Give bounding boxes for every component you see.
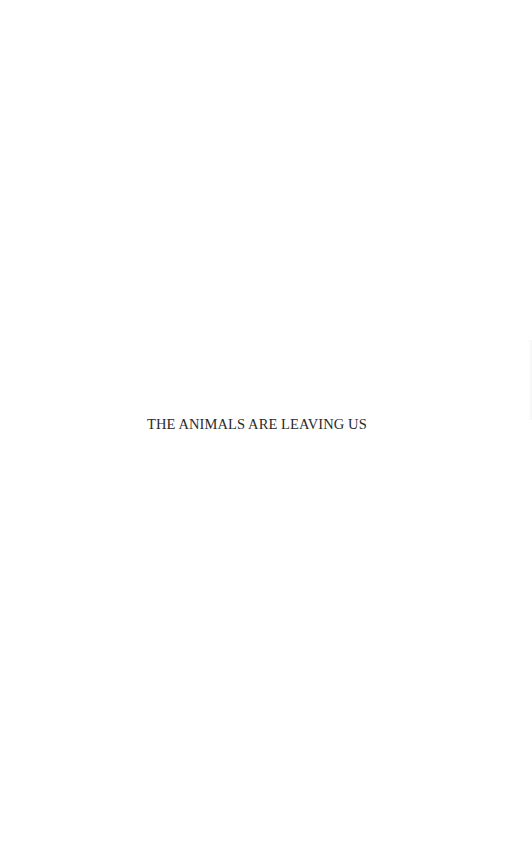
half-title: THE ANIMALS ARE LEAVING US bbox=[147, 414, 367, 434]
book-page: THE ANIMALS ARE LEAVING US bbox=[0, 0, 532, 859]
page-edge-shadow bbox=[528, 340, 532, 420]
